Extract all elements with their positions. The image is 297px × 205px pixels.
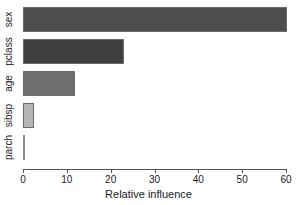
x-axis-title: Relative influence <box>0 188 297 200</box>
x-axis-tick-label: 40 <box>183 174 213 186</box>
y-axis-category-label-text: age <box>2 68 16 99</box>
bar-sibsp <box>23 103 34 128</box>
y-axis-category-label: parch <box>2 132 16 163</box>
y-axis-category-label-text: parch <box>2 132 16 163</box>
x-axis-tick-label: 50 <box>227 174 257 186</box>
bar-age <box>23 71 75 96</box>
x-axis-tick <box>23 169 24 173</box>
x-axis-tick <box>286 169 287 173</box>
y-axis-category-label-text: sibsp <box>2 100 16 131</box>
plot-area: sexpclassagesibspparch <box>0 0 297 170</box>
x-axis-tick-label: 30 <box>140 174 170 186</box>
y-axis-category-label: age <box>2 68 16 99</box>
bar-row: pclass <box>0 36 297 67</box>
relative-influence-chart: sexpclassagesibspparch 0102030405060 Rel… <box>0 0 297 205</box>
x-axis-tick <box>111 169 112 173</box>
bar-pclass <box>23 39 124 64</box>
y-axis-category-label-text: pclass <box>2 36 16 67</box>
x-axis-tick-label: 10 <box>52 174 82 186</box>
y-axis-category-label-text: sex <box>2 4 16 35</box>
bar-row: parch <box>0 132 297 163</box>
x-axis-tick <box>242 169 243 173</box>
x-axis-tick <box>198 169 199 173</box>
bar-row: sibsp <box>0 100 297 131</box>
x-axis-tick <box>155 169 156 173</box>
bar-row: age <box>0 68 297 99</box>
x-axis-tick-label: 0 <box>8 174 38 186</box>
y-axis-category-label: pclass <box>2 36 16 67</box>
x-axis-tick-label: 60 <box>271 174 297 186</box>
bar-parch <box>23 135 25 160</box>
x-axis-tick <box>67 169 68 173</box>
y-axis-category-label: sex <box>2 4 16 35</box>
x-axis: 0102030405060 Relative influence <box>0 169 297 205</box>
bar-row: sex <box>0 4 297 35</box>
bar-sex <box>23 7 287 32</box>
x-axis-tick-label: 20 <box>96 174 126 186</box>
y-axis-category-label: sibsp <box>2 100 16 131</box>
